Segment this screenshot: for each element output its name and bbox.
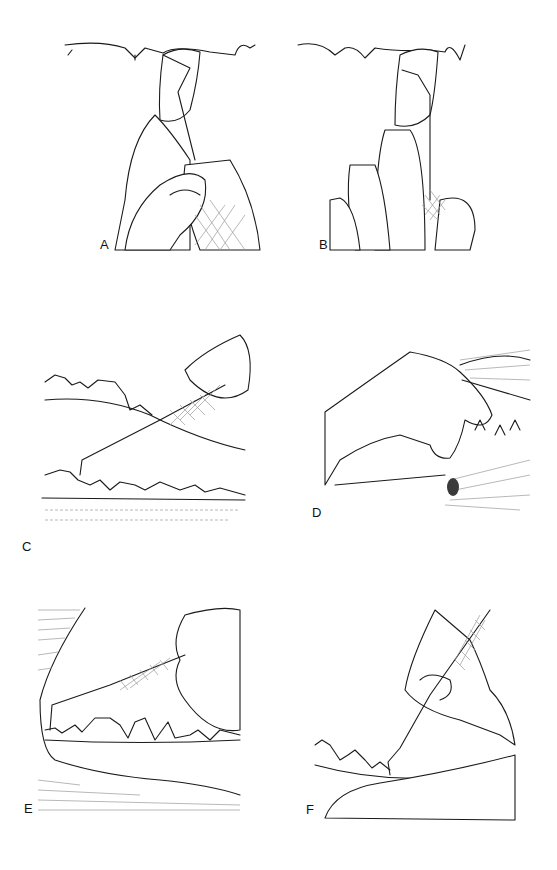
illustration-e	[20, 600, 270, 870]
illustration-a	[60, 0, 260, 260]
panel-label-b: B	[319, 238, 328, 251]
panel-b: B	[290, 0, 490, 260]
panel-label-c: C	[22, 540, 31, 553]
panel-a: A	[60, 0, 260, 260]
panel-d: D	[300, 320, 550, 550]
panel-c: C	[20, 310, 270, 560]
panel-label-f: F	[306, 803, 314, 816]
panel-label-e: E	[24, 802, 33, 815]
illustration-d	[300, 320, 550, 550]
panel-label-a: A	[100, 238, 109, 251]
panel-f: F	[300, 600, 557, 870]
illustration-b	[290, 0, 490, 260]
panel-label-d: D	[312, 506, 321, 519]
illustration-c	[20, 310, 270, 560]
illustration-f	[300, 600, 557, 870]
panel-e: E	[20, 600, 270, 870]
